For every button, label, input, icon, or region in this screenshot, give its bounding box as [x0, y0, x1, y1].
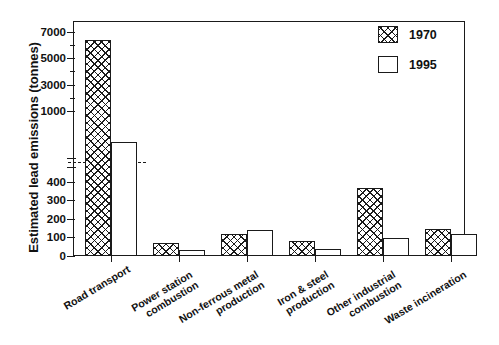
y-tick-label-100: 100: [47, 231, 66, 243]
legend: 1970 1995: [378, 26, 437, 86]
bar-power-station-1970: [153, 243, 179, 256]
y-tick-minor-4000: [70, 71, 75, 72]
bar-waste-incineration-1970: [425, 229, 451, 256]
bar-other-industrial-1995: [383, 238, 409, 256]
y-tick-minor-6000: [70, 45, 75, 46]
x-tick-other-industrial: [383, 256, 384, 262]
bar-other-industrial-1970: [357, 188, 383, 256]
legend-item-1995: 1995: [378, 56, 437, 73]
legend-label-1995: 1995: [409, 58, 437, 72]
y-tick-label-7000: 7000: [40, 26, 66, 38]
legend-label-1970: 1970: [409, 28, 437, 42]
bar-non-ferrous-metal-1995: [247, 230, 273, 256]
bar-power-station-1995: [179, 250, 205, 256]
y-tick-400: [67, 182, 75, 183]
y-tick-label-300: 300: [47, 194, 66, 206]
y-tick-label-400: 400: [47, 176, 66, 188]
x-tick-power-station: [179, 256, 180, 262]
bar-non-ferrous-metal-1970: [221, 234, 247, 256]
bar-waste-incineration-1995: [451, 234, 477, 256]
bar-road-transport-1995: [111, 142, 137, 256]
y-tick-7000: [67, 32, 75, 33]
y-tick-5000: [67, 58, 75, 59]
y-tick-label-3000: 3000: [40, 79, 66, 91]
legend-swatch-1995: [378, 56, 398, 73]
bar-road-transport-1970: [85, 40, 111, 256]
legend-swatch-1970: [378, 26, 398, 43]
y-tick-0: [67, 256, 75, 257]
y-tick-100: [67, 237, 75, 238]
y-tick-1000: [67, 111, 75, 112]
y-tick-label-1000: 1000: [40, 105, 66, 117]
y-axis-title: Estimated lead emissions (tonnes): [26, 23, 41, 273]
legend-item-1970: 1970: [378, 26, 437, 43]
y-tick-label-5000: 5000: [40, 52, 66, 64]
y-tick-200: [67, 219, 75, 220]
y-tick-300: [67, 200, 75, 201]
axis-break-lower-mark: [67, 167, 76, 168]
chart-figure: Estimated lead emissions (tonnes) 0 100 …: [0, 0, 499, 345]
y-tick-minor-2000: [70, 98, 75, 99]
y-tick-label-0: 0: [60, 250, 66, 262]
x-tick-waste-incineration: [451, 256, 452, 262]
axis-break-upper-mark: [67, 158, 76, 159]
y-tick-label-200: 200: [47, 213, 66, 225]
bar-iron-steel-1970: [289, 241, 315, 256]
bar-iron-steel-1995: [315, 249, 341, 256]
x-tick-iron-steel: [315, 256, 316, 262]
x-tick-road-transport: [111, 256, 112, 262]
x-tick-non-ferrous-metal: [247, 256, 248, 262]
y-tick-3000: [67, 85, 75, 86]
x-axis-label-road-transport: Road transport: [61, 268, 123, 312]
